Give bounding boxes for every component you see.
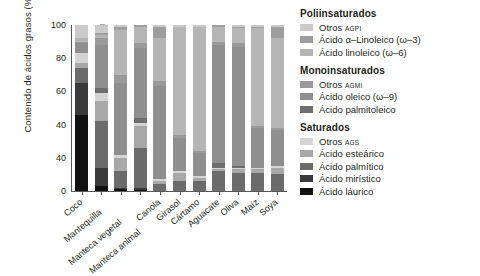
legend-swatch-alfa-linoleico-icon — [300, 36, 313, 43]
legend-swatch-oleico-icon — [300, 93, 313, 100]
legend-swatch-palmitoleico-icon — [300, 106, 313, 113]
legend-item[interactable]: Ácido palmítico — [300, 160, 480, 172]
legend-item[interactable]: Ácido linoleico (ω–6) — [300, 46, 480, 58]
x-axis-labels: CocoMantequillaManteca vegetalManteca an… — [0, 0, 300, 271]
legend-item[interactable]: Ácido láurico — [300, 185, 480, 197]
x-tick-mark — [258, 191, 259, 195]
legend-swatch-estearico-icon — [300, 150, 313, 157]
legend-swatch-linoleico-icon — [300, 49, 313, 56]
x-tick-mark — [219, 191, 220, 195]
x-tick-mark — [82, 191, 83, 195]
legend-item[interactable]: Ácido esteárico — [300, 148, 480, 160]
legend-item[interactable]: Otros AGMI — [300, 78, 480, 90]
legend-item-label: Ácido mirístico — [319, 173, 381, 184]
legend-swatch-otros-agpi-icon — [300, 24, 313, 31]
x-tick-mark — [121, 191, 122, 195]
legend-group: PoliinsaturadosOtros AGPIÁcido α–Linolei… — [300, 8, 480, 58]
chart-legend: PoliinsaturadosOtros AGPIÁcido α–Linolei… — [300, 8, 480, 204]
x-tick-mark — [277, 191, 278, 195]
x-tick-mark — [180, 191, 181, 195]
legend-swatch-otros-agmi-icon — [300, 81, 313, 88]
legend-item-label: Ácido palmítico — [319, 161, 383, 172]
legend-item-sublabel: AGPI — [345, 25, 362, 32]
legend-item-label: Ácido láurico — [319, 186, 373, 197]
x-tick-label: Oliva — [218, 197, 240, 218]
plot-area: Contenido de ácidos grasos (%) 100806040… — [0, 0, 300, 271]
legend-group: MonoinsaturadosOtros AGMIÁcido oleico (ω… — [300, 65, 480, 115]
x-tick-label: Maíz — [239, 197, 260, 217]
legend-item-label: Ácido α–Linoleico (ω–3) — [319, 34, 421, 45]
legend-swatch-laurico-icon — [300, 188, 313, 195]
legend-group-title: Monoinsaturados — [300, 65, 480, 76]
legend-item-label: Ácido palmitoleico — [319, 104, 396, 115]
legend-item[interactable]: Ácido palmitoleico — [300, 103, 480, 115]
legend-item-label: Ácido esteárico — [319, 148, 384, 159]
legend-item-label: Ácido oleico (ω–9) — [319, 91, 397, 102]
legend-item-sublabel: AGS — [345, 139, 360, 146]
x-tick-mark — [199, 191, 200, 195]
legend-swatch-otros-ags-icon — [300, 138, 313, 145]
legend-swatch-miristico-icon — [300, 175, 313, 182]
legend-item-sublabel: AGMI — [345, 82, 363, 89]
x-tick-label: Soya — [258, 197, 280, 218]
legend-item[interactable]: Ácido oleico (ω–9) — [300, 91, 480, 103]
legend-group: SaturadosOtros AGSÁcido esteáricoÁcido p… — [300, 122, 480, 197]
legend-item[interactable]: Ácido α–Linoleico (ω–3) — [300, 34, 480, 46]
x-tick-mark — [101, 191, 102, 195]
x-tick-mark — [140, 191, 141, 195]
x-tick-mark — [160, 191, 161, 195]
legend-item[interactable]: Ácido mirístico — [300, 173, 480, 185]
legend-swatch-palmitico-icon — [300, 163, 313, 170]
legend-group-title: Saturados — [300, 122, 480, 133]
legend-item-label: Ácido linoleico (ω–6) — [319, 47, 407, 58]
legend-item-label: Otros AGPI — [319, 22, 362, 33]
x-tick-label: Coco — [62, 197, 85, 218]
legend-item-label: Otros AGMI — [319, 79, 363, 90]
legend-item[interactable]: Otros AGPI — [300, 21, 480, 33]
legend-group-title: Poliinsaturados — [300, 8, 480, 19]
x-tick-mark — [238, 191, 239, 195]
legend-item[interactable]: Otros AGS — [300, 135, 480, 147]
legend-item-label: Otros AGS — [319, 136, 360, 147]
